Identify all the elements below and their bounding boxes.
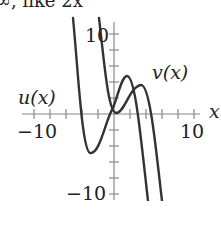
label-u: u(x) bbox=[18, 88, 56, 107]
label-v: v(x) bbox=[152, 63, 188, 82]
x-min-label: −10 bbox=[17, 122, 57, 141]
y-min-label: −10 bbox=[66, 184, 106, 201]
x-max-label: 10 bbox=[180, 122, 204, 141]
y-max-label: 10 bbox=[85, 26, 109, 45]
x-axis-label: x bbox=[209, 102, 220, 121]
